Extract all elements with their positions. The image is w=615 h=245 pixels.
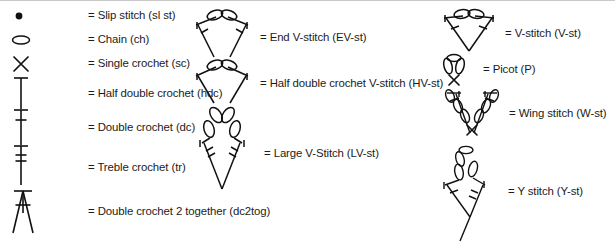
legend-label-v-stitch: = V-stitch (V-st) (505, 27, 581, 39)
legend-label-slip-stitch: = Slip stitch (sl st) (88, 9, 176, 21)
legend-label-double-crochet: = Double crochet (dc) (88, 121, 195, 133)
double-crochet-symbol (10, 107, 40, 147)
half-double-crochet-v-stitch-symbol (188, 55, 258, 107)
crochet-symbol-legend: = Slip stitch (sl st) = Chain (ch) = Sin… (0, 0, 615, 245)
legend-label-y-stitch: = Y stitch (Y-st) (508, 185, 583, 197)
legend-label-wing-stitch: = Wing stitch (W-st) (509, 107, 607, 119)
legend-label-treble-crochet: = Treble crochet (tr) (88, 161, 186, 173)
end-v-stitch-symbol (188, 5, 258, 61)
legend-label-picot: = Picot (P) (483, 63, 535, 75)
half-double-crochet-symbol (10, 75, 40, 111)
picot-symbol (437, 53, 481, 89)
legend-label-large-v-stitch: = Large V-Stitch (LV-st) (264, 147, 379, 159)
dc2tog-symbol (10, 187, 46, 237)
large-v-stitch-symbol (188, 107, 258, 193)
legend-label-hdc-v-stitch: = Half double crochet V-stitch (HV-st) (260, 77, 443, 89)
slip-stitch-symbol (10, 9, 40, 23)
single-crochet-symbol (10, 55, 40, 73)
treble-crochet-symbol (10, 143, 40, 187)
wing-stitch-symbol (437, 87, 517, 149)
legend-label-dc2tog: = Double crochet 2 together (dc2tog) (88, 205, 270, 217)
v-stitch-symbol (437, 5, 501, 55)
legend-label-end-v-stitch: = End V-stitch (EV-st) (260, 31, 366, 43)
legend-label-single-crochet: = Single crochet (sc) (88, 57, 190, 69)
chain-symbol (10, 33, 44, 47)
legend-label-chain: = Chain (ch) (88, 33, 149, 45)
